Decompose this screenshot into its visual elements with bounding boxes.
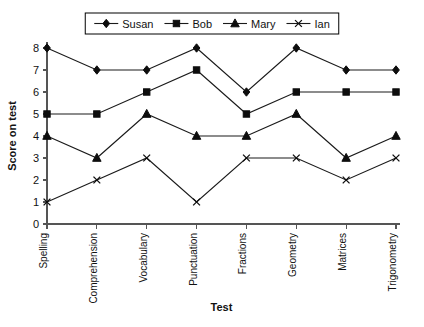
data-point-susan-1 <box>93 66 100 74</box>
data-point-susan-5 <box>293 44 300 52</box>
y-tick-label: 3 <box>33 152 39 164</box>
legend-label-bob: Bob <box>192 18 212 30</box>
legend-label-susan: Susan <box>122 18 153 30</box>
x-tick-label-fractions: Fractions <box>237 233 248 274</box>
data-point-susan-4 <box>243 88 250 96</box>
x-tick-label-spelling: Spelling <box>38 233 49 269</box>
data-point-mary-2 <box>142 109 150 117</box>
data-point-susan-0 <box>44 44 51 52</box>
legend-label-ian: Ian <box>314 18 329 30</box>
y-tick-label: 4 <box>33 130 39 142</box>
chart-legend: SusanBobMaryIan <box>85 13 338 34</box>
x-axis-title: Test <box>211 301 233 313</box>
data-point-susan-6 <box>343 66 350 74</box>
y-tick-label: 1 <box>33 196 39 208</box>
x-axis-tick-labels: SpellingComprehensionVocabularyPunctuati… <box>38 224 398 304</box>
data-point-mary-4 <box>242 131 250 139</box>
data-point-ian-1 <box>93 177 100 184</box>
data-point-mary-6 <box>342 153 350 161</box>
data-point-susan-3 <box>193 44 200 52</box>
chart-series-layer <box>43 44 400 206</box>
data-point-mary-5 <box>292 109 300 117</box>
data-point-ian-3 <box>193 199 200 206</box>
series-ian <box>44 155 400 206</box>
y-tick-label: 5 <box>33 108 39 120</box>
data-point-mary-0 <box>43 131 51 139</box>
x-tick-label-matrices: Matrices <box>337 233 348 271</box>
legend-label-mary: Mary <box>251 18 276 30</box>
y-tick-label: 6 <box>33 86 39 98</box>
y-axis-title: Score on test <box>6 101 18 171</box>
y-tick-label: 7 <box>33 64 39 76</box>
line-chart: SusanBobMaryIan 012345678 SpellingCompre… <box>0 0 424 327</box>
legend-marker-bob <box>173 20 179 26</box>
data-point-bob-6 <box>343 89 349 95</box>
data-point-ian-7 <box>393 155 400 162</box>
x-tick-label-trigonometry: Trigonometry <box>387 233 398 292</box>
data-point-mary-7 <box>392 131 400 139</box>
chart-canvas: SusanBobMaryIan 012345678 SpellingCompre… <box>0 0 424 327</box>
y-tick-label: 8 <box>33 42 39 54</box>
data-point-bob-4 <box>243 111 249 117</box>
data-point-susan-7 <box>393 66 400 74</box>
data-point-susan-2 <box>143 66 150 74</box>
data-point-ian-2 <box>143 155 150 162</box>
data-point-bob-2 <box>144 89 150 95</box>
data-point-mary-1 <box>93 153 101 161</box>
data-point-bob-7 <box>393 89 399 95</box>
data-point-bob-3 <box>193 67 199 73</box>
x-tick-label-punctuation: Punctuation <box>188 233 199 286</box>
data-point-bob-5 <box>293 89 299 95</box>
x-tick-label-vocabulary: Vocabulary <box>138 233 149 282</box>
y-tick-label: 2 <box>33 174 39 186</box>
x-tick-label-comprehension: Comprehension <box>88 233 99 304</box>
data-point-bob-1 <box>94 111 100 117</box>
data-point-mary-3 <box>192 131 200 139</box>
y-tick-label: 0 <box>33 218 39 230</box>
data-point-ian-6 <box>343 177 350 184</box>
series-line-mary <box>47 114 396 158</box>
series-line-ian <box>47 158 396 202</box>
x-tick-label-geometry: Geometry <box>287 233 298 277</box>
data-point-bob-0 <box>44 111 50 117</box>
